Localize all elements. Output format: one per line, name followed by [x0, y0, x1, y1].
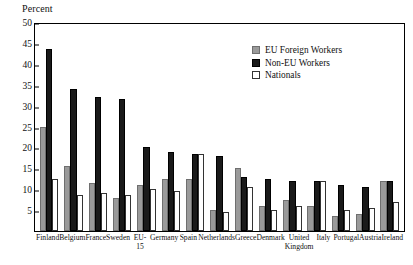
y-tick-label: 15 [23, 166, 33, 176]
y-tick-label: 30 [23, 103, 33, 113]
legend-label: Non-EU Workers [265, 58, 330, 68]
bars-container [35, 24, 404, 231]
bar [296, 206, 302, 231]
bar-group [134, 24, 158, 231]
y-tick-label: 45 [23, 40, 33, 50]
x-tick-label: Italy [313, 234, 333, 264]
bar [52, 179, 58, 231]
x-tick-label: France [85, 234, 106, 264]
y-tick-label: 40 [23, 61, 33, 71]
bar [198, 154, 204, 231]
x-axis-labels: FinlandBelgiumFranceSwedenEU-15GermanySp… [34, 234, 405, 264]
bar [77, 195, 83, 231]
x-tick-label: EU-15 [130, 234, 150, 264]
y-tick-label: 50 [23, 19, 33, 29]
y-tick-label: 10 [23, 186, 33, 196]
bar [344, 210, 350, 231]
bar-group [37, 24, 61, 231]
bar-group [378, 24, 402, 231]
legend-label: Nationals [265, 70, 301, 80]
y-tick-label: 5 [27, 207, 32, 217]
x-tick-label: Germany [150, 234, 178, 264]
legend: EU Foreign WorkersNon-EU WorkersNational… [252, 45, 342, 80]
y-tick-label: 25 [23, 124, 33, 134]
bar-group [110, 24, 134, 231]
bar [125, 195, 131, 231]
x-tick-label: Netherlands [198, 234, 235, 264]
x-tick-label: Portugal [333, 234, 359, 264]
x-tick-label: Belgium [59, 234, 85, 264]
legend-swatch-icon [252, 59, 260, 67]
bar [320, 181, 326, 231]
bar-group [353, 24, 377, 231]
x-tick-label: Austria [359, 234, 381, 264]
bar-chart: Percent 5101520253035404550 FinlandBelgi… [0, 0, 413, 265]
legend-label: EU Foreign Workers [265, 45, 342, 55]
bar [247, 187, 253, 231]
legend-item: EU Foreign Workers [252, 45, 342, 55]
plot-area: 5101520253035404550 [34, 23, 405, 232]
x-tick-label: Finland [36, 234, 59, 264]
legend-swatch-icon [252, 71, 260, 79]
x-tick-label: United Kingdom [285, 234, 314, 264]
bar [101, 193, 107, 231]
x-tick-label: Ireland [381, 234, 403, 264]
bar-group [159, 24, 183, 231]
bar [271, 210, 277, 231]
bar-group [86, 24, 110, 231]
x-tick-label: Spain [178, 234, 198, 264]
bar-group [207, 24, 231, 231]
bar [150, 189, 156, 231]
legend-swatch-icon [252, 46, 260, 54]
bar [223, 212, 229, 231]
y-tick-label: 35 [23, 82, 33, 92]
bar-group [61, 24, 85, 231]
x-tick-label: Sweden [106, 234, 130, 264]
bar-group [183, 24, 207, 231]
bar [174, 191, 180, 231]
bar [369, 208, 375, 231]
x-tick-label: Greece [235, 234, 257, 264]
x-tick-label: Denmark [256, 234, 284, 264]
bar [393, 202, 399, 231]
y-axis-title: Percent [22, 3, 53, 14]
y-tick-label: 20 [23, 145, 33, 155]
legend-item: Non-EU Workers [252, 58, 342, 68]
legend-item: Nationals [252, 70, 342, 80]
